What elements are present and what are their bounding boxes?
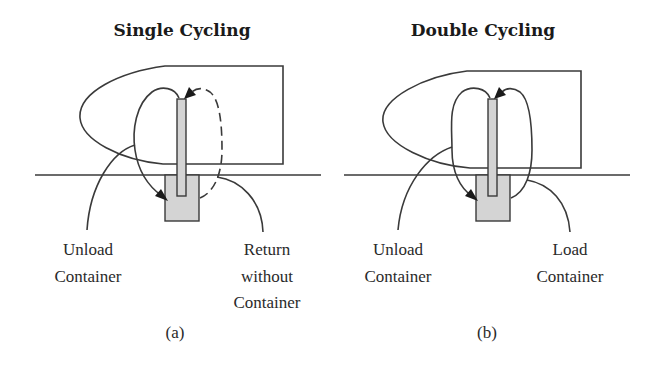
load-arrowhead [494,87,506,99]
ship-outline [383,71,581,168]
panel-caption: (a) [166,323,185,342]
panel-caption: (b) [477,323,497,342]
return-arrowhead [184,87,196,99]
panel-title: Single Cycling [113,20,250,40]
label-return-line2: without [241,267,293,286]
label-unload-line1: Unload [63,240,114,259]
label-unload-line2: Container [364,267,431,286]
label-return-line3: Container [233,293,300,312]
crane-column [488,99,497,196]
crane-column [177,99,186,196]
cycling-diagram: Single Cycling Unload Container Return w… [0,0,656,365]
panel-title: Double Cycling [411,20,556,40]
label-unload-line1: Unload [373,240,424,259]
label-unload-line2: Container [54,267,121,286]
unload-leader [398,147,452,230]
return-leader [217,177,263,232]
label-load-line2: Container [536,267,603,286]
panel-single-cycling: Single Cycling Unload Container Return w… [35,20,321,342]
panel-double-cycling: Double Cycling Unload Container Load Con… [344,20,630,342]
label-load-line1: Load [553,240,588,259]
load-leader [527,180,570,232]
label-return-line1: Return [244,240,291,259]
